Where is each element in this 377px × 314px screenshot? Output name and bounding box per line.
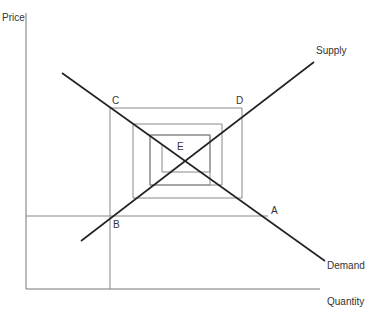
point-a-label: A xyxy=(271,206,278,216)
point-d-label: D xyxy=(236,96,243,106)
demand-curve xyxy=(62,73,325,261)
point-e-label: E xyxy=(177,142,184,152)
point-b-label: B xyxy=(113,220,120,230)
x-axis-label: Quantity xyxy=(327,297,364,307)
supply-curve xyxy=(81,62,314,241)
y-axis-label: Price xyxy=(2,13,25,23)
supply-label: Supply xyxy=(316,46,347,56)
demand-label: Demand xyxy=(327,261,365,271)
point-c-label: C xyxy=(112,96,119,106)
